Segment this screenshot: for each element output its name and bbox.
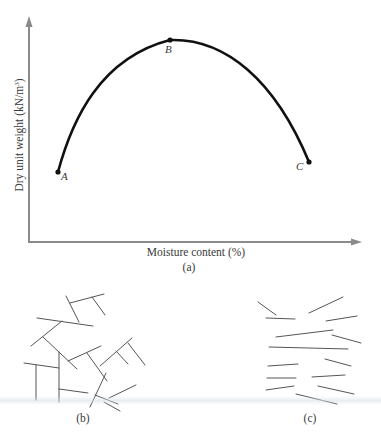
flocculated-structure-diagram [24,294,145,411]
point-b-marker [167,37,172,42]
point-a-marker [55,169,60,174]
compaction-curve [58,40,309,172]
point-b-label: B [165,43,172,55]
point-c-marker [306,159,311,164]
y-axis-label-text: Dry unit weight (kN/m [13,86,25,192]
compaction-figure: Dry unit weight (kN/m3) Moisture content… [0,0,381,439]
dispersed-structure-diagram [258,297,361,404]
y-axis-label: Dry unit weight (kN/m3) [13,78,26,191]
y-axis-arrow-icon [26,16,33,27]
y-axis-label-superscript: 3 [13,82,21,86]
axes [28,24,354,242]
x-axis-label: Moisture content (%) [147,246,245,258]
y-axis-label-tail: ) [13,78,25,82]
caption-a: (a) [183,261,196,273]
figure-canvas [0,0,381,439]
caption-c: (c) [304,412,317,424]
caption-b: (b) [76,412,89,424]
x-axis-arrow-icon [351,239,362,246]
point-c-label: C [296,160,303,172]
point-a-label: A [61,170,68,182]
